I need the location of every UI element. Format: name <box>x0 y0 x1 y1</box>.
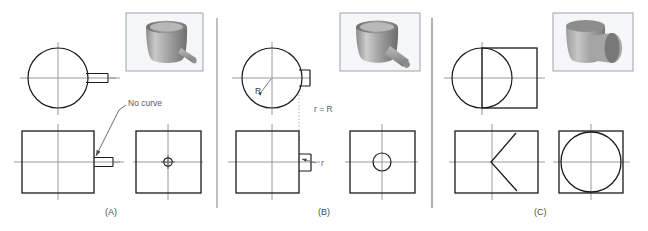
panel-c-drawing <box>444 13 633 200</box>
panel-a-thumbnail <box>126 13 203 71</box>
panel-b-thumbnail <box>340 13 420 71</box>
pictorial-cylinder-bore <box>360 22 394 31</box>
pictorial-rod-end <box>192 58 196 64</box>
annotation-radius-major: R <box>255 86 261 96</box>
panel-c-front-view <box>449 124 545 200</box>
panel-a-drawing <box>14 13 203 200</box>
panel-caption-a: (A) <box>105 207 117 217</box>
figure-canvas: No curve R r = R r (A) (B) (C) <box>0 0 648 231</box>
panel-c-side-view <box>553 124 630 200</box>
pictorial-cylinder-bore <box>150 22 183 31</box>
front-view-rod <box>299 154 311 171</box>
panel-c-top-view <box>444 42 545 115</box>
annotation-radius-minor: r <box>321 158 324 168</box>
no-curve-leader <box>96 105 126 156</box>
drawing-svg <box>0 0 648 231</box>
panel-b-front-view <box>228 124 320 200</box>
panel-b-side-view <box>345 124 418 200</box>
annotation-radius-equality: r = R <box>314 104 333 114</box>
panel-caption-b: (B) <box>318 207 330 217</box>
panel-a-front-view <box>14 124 124 200</box>
panel-caption-c: (C) <box>534 207 547 217</box>
panel-b-top-view <box>232 42 310 141</box>
panel-a-side-view <box>133 124 203 200</box>
panel-c-thumbnail <box>553 13 633 71</box>
pictorial-cylinder-end-face <box>605 33 620 63</box>
pictorial-cylinder-top <box>566 20 605 32</box>
panel-a-top-view <box>20 42 120 115</box>
annotation-no-curve: No curve <box>128 98 162 108</box>
radius-leader <box>262 79 271 91</box>
